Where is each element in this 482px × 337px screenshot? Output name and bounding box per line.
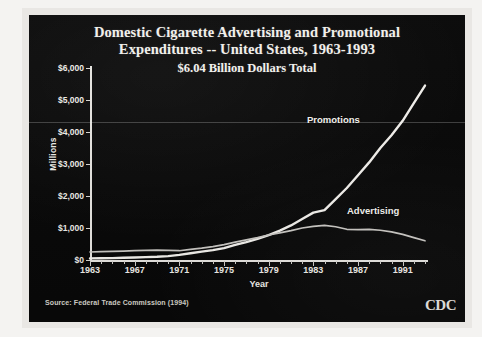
screenshot-root: Domestic Cigarette Advertising and Promo… (0, 0, 482, 337)
series-label-advertising: Advertising (347, 205, 399, 216)
chart-series-lines (29, 15, 465, 322)
cdc-logo: CDC (425, 297, 456, 314)
presentation-slide: Domestic Cigarette Advertising and Promo… (29, 15, 465, 322)
source-note: Source: Federal Trade Commission (1994) (45, 299, 189, 306)
series-label-promotions: Promotions (307, 114, 360, 125)
series-line-promotions (90, 86, 425, 259)
